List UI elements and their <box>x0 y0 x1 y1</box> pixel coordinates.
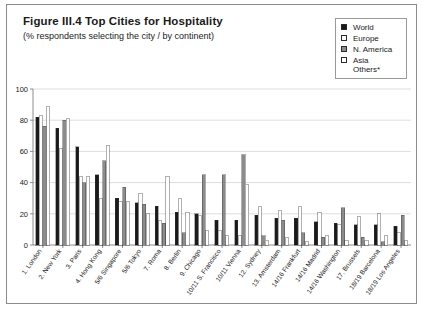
bar <box>278 211 281 245</box>
bar <box>378 214 381 245</box>
bar <box>222 175 225 245</box>
x-tick-label: 3. Paris <box>64 247 83 270</box>
y-tick-label: 0 <box>24 241 28 250</box>
bar <box>405 240 408 245</box>
bar <box>385 236 388 245</box>
bar <box>245 184 248 245</box>
bar <box>255 215 258 245</box>
y-axis: 020406080100 <box>15 85 33 250</box>
bar <box>358 217 361 245</box>
bar <box>365 240 368 245</box>
bar <box>325 236 328 245</box>
bar <box>123 187 126 245</box>
bar <box>361 237 364 245</box>
x-tick-label: 5/6 Tokyo <box>120 247 143 275</box>
bar <box>166 176 169 245</box>
bar <box>397 233 400 245</box>
bar <box>258 206 261 245</box>
category-labels: 1. London2. New York3. Paris4. Hong Kong… <box>20 247 402 297</box>
bar <box>182 233 185 245</box>
bar <box>199 215 202 245</box>
bar <box>321 237 324 245</box>
bar <box>95 175 98 245</box>
bar <box>285 237 288 245</box>
x-tick-label: 8. Berlin <box>162 247 182 271</box>
bar <box>282 220 285 245</box>
bar <box>242 155 245 245</box>
x-tick-label: 7. Roma <box>142 247 162 272</box>
bar <box>63 120 66 245</box>
bar <box>305 242 308 245</box>
bar <box>159 220 162 245</box>
bar <box>275 218 278 245</box>
bar <box>142 204 145 245</box>
bar <box>126 201 129 245</box>
bar <box>338 225 341 245</box>
bar <box>59 148 62 245</box>
bar <box>238 236 241 245</box>
y-tick-label: 100 <box>15 85 28 94</box>
bar <box>302 233 305 245</box>
bar <box>394 226 397 245</box>
bar <box>195 214 198 245</box>
bar <box>43 126 46 245</box>
bar <box>206 231 209 245</box>
bar <box>76 147 79 245</box>
bar <box>202 175 205 245</box>
bar <box>334 223 337 245</box>
bar <box>47 106 50 245</box>
bar-chart: 020406080100 1. London2. New York3. Pari… <box>7 5 418 305</box>
bar <box>106 145 109 245</box>
bar <box>39 116 42 245</box>
bar <box>235 220 238 245</box>
bar <box>83 183 86 245</box>
bar <box>298 206 301 245</box>
bar <box>66 119 69 245</box>
bar <box>115 198 118 245</box>
figure-frame: Figure III.4 Top Cities for Hospitality … <box>6 4 417 304</box>
y-tick-label: 40 <box>20 178 28 187</box>
bar <box>294 218 297 245</box>
bar <box>381 242 384 245</box>
y-tick-label: 80 <box>20 116 28 125</box>
bar <box>186 212 189 245</box>
bar <box>354 225 357 245</box>
bar <box>262 236 265 245</box>
bar <box>86 176 89 245</box>
y-tick-label: 20 <box>20 210 28 219</box>
bar <box>139 194 142 245</box>
bar <box>135 203 138 245</box>
bar <box>314 222 317 245</box>
bars-layer <box>36 106 408 245</box>
bar <box>318 212 321 245</box>
bar <box>119 201 122 245</box>
bar <box>103 161 106 245</box>
bar <box>401 215 404 245</box>
bar <box>36 117 39 245</box>
bar <box>56 128 59 245</box>
bar <box>179 198 182 245</box>
bar <box>226 236 229 245</box>
bar <box>162 223 165 245</box>
bar <box>79 176 82 245</box>
bar <box>374 225 377 245</box>
bar <box>215 220 218 245</box>
y-tick-label: 60 <box>20 147 28 156</box>
bar <box>341 208 344 245</box>
bar <box>175 212 178 245</box>
bar <box>146 214 149 245</box>
bar <box>265 240 268 245</box>
bar <box>218 231 221 245</box>
bar <box>155 206 158 245</box>
bar <box>345 240 348 245</box>
bar <box>99 198 102 245</box>
